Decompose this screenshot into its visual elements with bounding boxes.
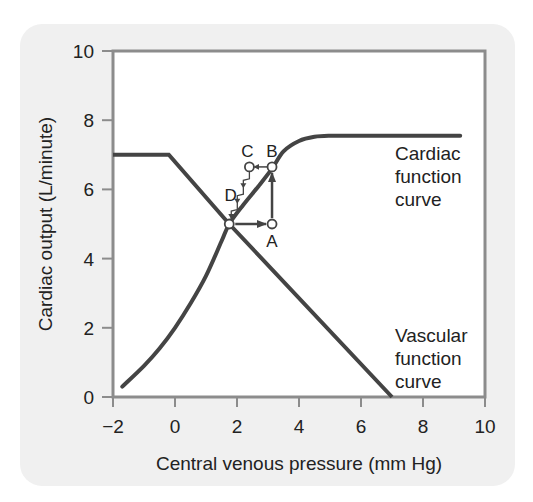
y-axis-title: Cardiac output (L/minute)	[35, 117, 56, 331]
point-label-c: C	[241, 142, 253, 161]
x-axis-title: Central venous pressure (mm Hg)	[156, 453, 442, 474]
x-tick-label: 2	[232, 416, 243, 437]
vascular-curve-label: function	[395, 348, 462, 369]
x-tick-label: 4	[294, 416, 305, 437]
chart-svg: −202468100246810Central venous pressure …	[0, 0, 533, 502]
x-tick-label: 6	[356, 416, 367, 437]
cardiac-curve-label: Cardiac	[395, 143, 460, 164]
vascular-curve-label: curve	[395, 371, 441, 392]
x-tick-label: 8	[418, 416, 429, 437]
point-label-a: A	[266, 232, 278, 251]
y-tick-label: 0	[83, 387, 94, 408]
cardiac-curve-label: curve	[395, 189, 441, 210]
x-tick-label: −2	[102, 416, 124, 437]
x-tick-label: 10	[474, 416, 495, 437]
y-tick-label: 8	[83, 110, 94, 131]
y-tick-label: 10	[73, 41, 94, 62]
y-tick-label: 4	[83, 249, 94, 270]
y-tick-label: 2	[83, 318, 94, 339]
point-marker	[268, 220, 277, 229]
x-tick-label: 0	[170, 416, 181, 437]
cardiac-curve-label: function	[395, 166, 462, 187]
point-label-b: B	[266, 142, 277, 161]
point-marker	[225, 220, 234, 229]
point-marker	[268, 162, 277, 171]
y-tick-label: 6	[83, 179, 94, 200]
point-marker	[245, 162, 254, 171]
vascular-curve-label: Vascular	[395, 325, 468, 346]
point-label-d: D	[224, 186, 236, 205]
